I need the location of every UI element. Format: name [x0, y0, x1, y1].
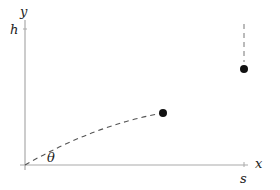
apex-point — [159, 109, 167, 117]
landing-point — [240, 65, 248, 73]
theta-label: θ — [47, 150, 55, 165]
y-axis-label: y — [19, 4, 28, 19]
h-label: h — [10, 22, 18, 37]
x-axis-label: x — [255, 156, 263, 171]
projectile-diagram: y h θ x s — [0, 0, 280, 190]
s-label: s — [240, 171, 247, 186]
trajectory-curve — [25, 113, 163, 165]
